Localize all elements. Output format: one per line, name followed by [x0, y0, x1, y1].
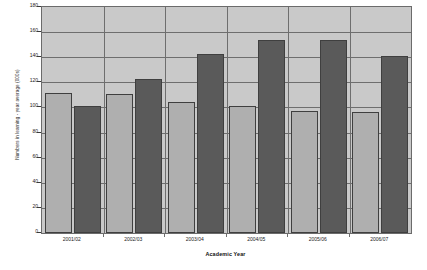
x-axis-title: Academic Year — [41, 251, 410, 257]
y-axis-tick-label: 140 — [14, 53, 38, 58]
gridline-vertical — [350, 7, 351, 233]
x-axis-tick-labels: 2001/022002/032003/042004/052005/062006/… — [41, 237, 410, 249]
y-axis-tick-label: 0 — [14, 229, 38, 234]
y-axis-tick-mark — [37, 81, 41, 82]
y-axis-tick-label: 160 — [14, 28, 38, 33]
x-axis-tick-label: 2002/03 — [103, 237, 165, 242]
y-axis-tick-mark — [37, 132, 41, 133]
bar-series-2-dark-2003-04 — [197, 54, 224, 233]
bar-series-1-light-2003-04 — [168, 102, 195, 233]
bar-series-1-light-2002-03 — [106, 94, 133, 233]
y-axis-tick-mark — [37, 106, 41, 107]
x-axis-tick-label: 2001/02 — [41, 237, 103, 242]
y-axis-tick-label: 80 — [14, 129, 38, 134]
x-axis-tick-label: 2003/04 — [164, 237, 226, 242]
plot-area — [41, 6, 412, 234]
gridline-vertical — [165, 7, 166, 233]
y-axis-tick-mark — [37, 56, 41, 57]
x-axis-tick-label: 2004/05 — [226, 237, 288, 242]
bar-series-2-dark-2006-07 — [381, 56, 408, 233]
y-axis-tick-label: 180 — [14, 3, 38, 8]
bar-series-2-dark-2004-05 — [258, 40, 285, 233]
bar-series-2-dark-2002-03 — [135, 79, 162, 233]
x-axis-tick-mark — [103, 233, 104, 237]
x-axis-tick-label: 2005/06 — [287, 237, 349, 242]
gridline-vertical — [227, 7, 228, 233]
y-axis-tick-mark — [37, 232, 41, 233]
y-axis-tick-labels: 020406080100120140160180 — [14, 0, 38, 270]
y-axis-tick-label: 40 — [14, 179, 38, 184]
bar-series-1-light-2006-07 — [352, 112, 379, 233]
y-axis-tick-label: 20 — [14, 204, 38, 209]
gridline-vertical — [288, 7, 289, 233]
bar-series-1-light-2004-05 — [229, 106, 256, 233]
x-axis-tick-mark — [349, 233, 350, 237]
bar-chart-figure: Numbers in learning - year average (000s… — [0, 0, 427, 270]
y-axis-tick-label: 60 — [14, 154, 38, 159]
gridline-vertical — [104, 7, 105, 233]
bar-series-1-light-2001-02 — [45, 93, 72, 233]
y-axis-tick-label: 100 — [14, 103, 38, 108]
y-axis-tick-mark — [37, 157, 41, 158]
x-axis-tick-mark — [287, 233, 288, 237]
bar-series-2-dark-2005-06 — [320, 40, 347, 233]
y-axis-tick-mark — [37, 6, 41, 7]
y-axis-tick-mark — [37, 207, 41, 208]
bar-series-1-light-2005-06 — [291, 111, 318, 233]
y-axis-tick-label: 120 — [14, 78, 38, 83]
x-axis-tick-mark — [226, 233, 227, 237]
bar-series-2-dark-2001-02 — [74, 106, 101, 233]
y-axis-tick-mark — [37, 182, 41, 183]
x-axis-tick-mark — [164, 233, 165, 237]
y-axis-tick-mark — [37, 31, 41, 32]
x-axis-tick-label: 2006/07 — [349, 237, 411, 242]
